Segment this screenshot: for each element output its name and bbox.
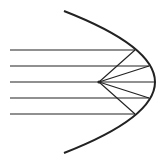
focal-point (97, 80, 100, 83)
parabolic-reflector-diagram (0, 0, 163, 162)
incoming-parallel-rays (10, 50, 155, 114)
reflected-ray-4 (99, 82, 149, 98)
reflected-ray-2 (99, 66, 149, 82)
